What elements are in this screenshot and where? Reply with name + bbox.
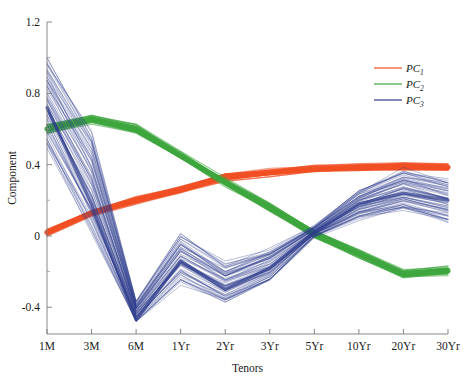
- legend-label-PC2: PC2: [405, 78, 424, 93]
- chart-root: 1.20.80.40-0.41M3M6M1Yr2Yr3Yr5Yr10Yr20Yr…: [0, 0, 465, 386]
- x-tick-label-1M: 1M: [39, 340, 55, 352]
- x-tick-label-3Yr: 3Yr: [261, 340, 279, 352]
- x-tick-label-20Yr: 20Yr: [392, 340, 416, 352]
- legend-label-PC1: PC1: [405, 62, 424, 77]
- y-tick-label: 1.2: [26, 16, 41, 28]
- x-tick-label-30Yr: 30Yr: [436, 340, 460, 352]
- x-tick-label-3M: 3M: [84, 340, 100, 352]
- parallel-coordinates-chart: 1.20.80.40-0.41M3M6M1Yr2Yr3Yr5Yr10Yr20Yr…: [0, 0, 465, 386]
- chart-legend: PC1PC2PC3: [374, 62, 424, 109]
- legend-label-PC3: PC3: [405, 94, 424, 109]
- y-tick-label: 0.8: [26, 87, 41, 99]
- y-tick-label: 0.4: [26, 159, 41, 171]
- x-tick-label-5Yr: 5Yr: [305, 340, 323, 352]
- y-tick-label: -0.4: [22, 301, 40, 313]
- x-axis-title: Tenors: [232, 362, 264, 374]
- y-axis-title: Component: [6, 150, 19, 204]
- x-tick-label-6M: 6M: [128, 340, 144, 352]
- x-tick-label-10Yr: 10Yr: [347, 340, 371, 352]
- x-tick-label-2Yr: 2Yr: [216, 340, 234, 352]
- x-tick-label-1Yr: 1Yr: [172, 340, 190, 352]
- y-tick-label: 0: [34, 230, 40, 242]
- series-layer: [47, 58, 448, 322]
